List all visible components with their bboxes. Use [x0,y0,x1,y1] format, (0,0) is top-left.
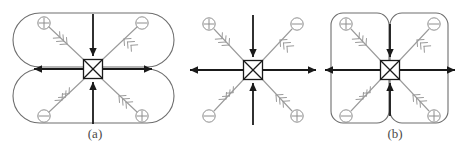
plus-circle-icon [340,18,352,30]
plus-circle-icon [38,17,50,29]
panel-a-center-vertex [84,60,103,79]
plus-circle-icon [428,110,440,122]
panel-middle-arrowhead-tr [280,40,294,53]
minus-circle-icon [136,17,148,29]
plus-circle-icon [291,110,303,122]
panel-b-caption: (b) [360,126,430,142]
minus-circle-icon [38,110,50,122]
panel-middle-center-vertex [244,61,263,80]
plus-circle-icon [136,110,148,122]
minus-circle-icon [340,110,352,122]
panel-a-caption: (a) [60,126,130,142]
panel-middle-arrowhead-bl [219,87,233,100]
panel-b-center-vertex [381,61,400,80]
panel-a-arrowhead-bl [55,88,69,101]
panel-a-arrowhead-tr [124,39,138,52]
minus-circle-icon [428,18,440,30]
panel-b-arrowhead-tr [417,40,431,53]
minus-circle-icon [291,18,303,30]
minus-circle-icon [203,110,215,122]
plus-circle-icon [203,18,215,30]
figure-canvas: (a) (b) [0,0,457,148]
panel-b-arrowhead-bl [356,87,370,100]
